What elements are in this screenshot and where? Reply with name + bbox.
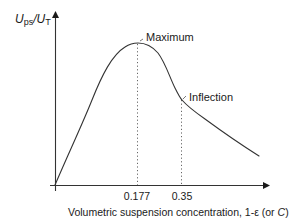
y-axis-label: Ups/UT [15, 12, 51, 27]
x-axis-label: Volumetric suspension concentration, 1-ε… [68, 206, 289, 218]
maximum-label: Maximum [146, 31, 194, 43]
x-tick-label-035: 0.35 [172, 190, 193, 202]
maximum-leader [140, 39, 143, 41]
chart-canvas: Maximum Inflection 0.177 0.35 Ups/UT Vol… [0, 0, 293, 221]
data-curve [55, 43, 259, 185]
x-tick-label-0177: 0.177 [124, 190, 150, 202]
y-label-sep: /U [32, 12, 45, 26]
inflection-label: Inflection [189, 91, 233, 103]
inflection-leader [183, 96, 186, 99]
